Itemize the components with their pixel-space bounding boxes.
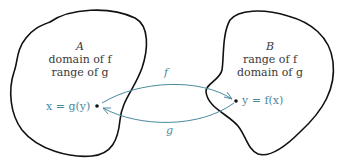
point-x-dot xyxy=(95,104,99,108)
point-y-dot xyxy=(234,99,238,103)
set-a-outline xyxy=(11,10,147,156)
diagram-shapes xyxy=(0,0,341,164)
arrow-f-label: f xyxy=(164,66,168,79)
set-b-line2: domain of g xyxy=(230,66,310,79)
set-a-line1: domain of f xyxy=(40,53,120,66)
function-inverse-diagram: A domain of f range of g B range of f do… xyxy=(0,0,341,164)
arrow-g-label: g xyxy=(166,124,173,137)
point-x-label: x = g(y) xyxy=(46,100,90,113)
set-b-name: B xyxy=(250,40,290,53)
set-b-line1: range of f xyxy=(230,53,310,66)
set-a-line2: range of g xyxy=(40,66,120,79)
point-y-label: y = f(x) xyxy=(242,94,283,107)
set-b-outline xyxy=(206,11,334,155)
set-a-name: A xyxy=(60,40,100,53)
arrow-f xyxy=(102,84,232,103)
